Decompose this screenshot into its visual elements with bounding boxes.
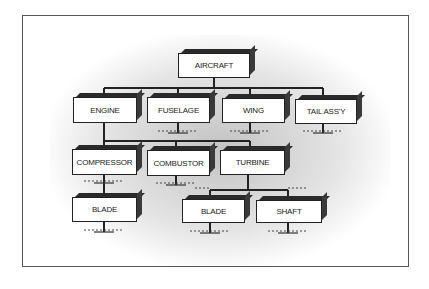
node-label: SHAFT [276, 207, 301, 216]
node-fuselage: FUSELAGE [147, 97, 210, 123]
node-shaft: SHAFT [256, 200, 322, 223]
node-label: TAIL ASS'Y [307, 107, 346, 116]
node-label: COMBUSTOR [153, 159, 203, 168]
node-turbine: TURBINE [220, 150, 285, 175]
node-label: BLADE [201, 207, 226, 216]
node-compressor: COMPRESSOR [72, 149, 137, 175]
node-label: COMPRESSOR [77, 158, 133, 167]
node-label: TURBINE [236, 158, 270, 167]
node-label: ENGINE [90, 106, 119, 115]
node-engine: ENGINE [73, 97, 137, 123]
node-aircraft: AIRCRAFT [178, 53, 250, 78]
node-blade-turbine: BLADE [182, 199, 245, 223]
node-wing: WING [222, 98, 285, 123]
node-label: AIRCRAFT [195, 61, 233, 70]
node-blade-compressor: BLADE [72, 197, 137, 222]
node-tail-assy: TAIL ASS'Y [295, 99, 357, 124]
node-label: WING [243, 106, 264, 115]
node-combustor: COMBUSTOR [147, 150, 210, 176]
node-label: FUSELAGE [158, 106, 199, 115]
node-label: BLADE [92, 205, 117, 214]
